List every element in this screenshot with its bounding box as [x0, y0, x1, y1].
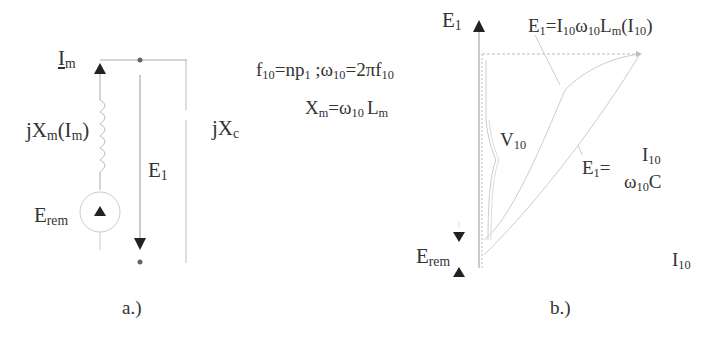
erem-down-arrow-icon [453, 232, 465, 242]
diagram-lines [0, 0, 724, 347]
caption-a: a.) [122, 298, 142, 317]
capacitor-line-label: E1= [582, 158, 611, 179]
plot-b [459, 22, 640, 268]
capacitor-line-numerator: I10 [642, 145, 661, 166]
v10-label: V10 [500, 130, 526, 151]
erem-b-label: Erem [416, 246, 450, 269]
erem-label: Erem [34, 205, 68, 228]
figure-canvas: Im jXm(Im) E1 Erem jXc a.) f10=np1 ;ω10=… [0, 0, 724, 347]
circuit-diagram [80, 60, 187, 263]
inductor-label: jXm(Im) [26, 120, 89, 143]
erem-up-arrow-icon [453, 267, 465, 277]
top-node-dot [138, 58, 143, 63]
reactance-equation: Xm=ω10Lm [305, 98, 388, 119]
frequency-equation: f10=np1 ;ω10=2πf10 [256, 60, 394, 81]
magnetization-curve-label: E1=I10ω10Lm(I10) [528, 16, 653, 37]
e1-label: E1 [148, 160, 168, 183]
y-axis-arrow-icon [473, 20, 485, 32]
y-axis-label: E1 [442, 10, 462, 33]
bottom-node-dot [138, 260, 143, 265]
capacitor-line-denominator: ω10C [624, 172, 662, 193]
x-axis-label: I10 [672, 250, 691, 271]
im-label: Im [58, 48, 76, 71]
erem-source-arrow-icon [94, 206, 106, 216]
capacitor-label: jXc [212, 118, 239, 141]
im-arrow-icon [94, 63, 106, 74]
caption-b: b.) [550, 298, 571, 317]
e1-down-arrow-icon [134, 238, 146, 250]
